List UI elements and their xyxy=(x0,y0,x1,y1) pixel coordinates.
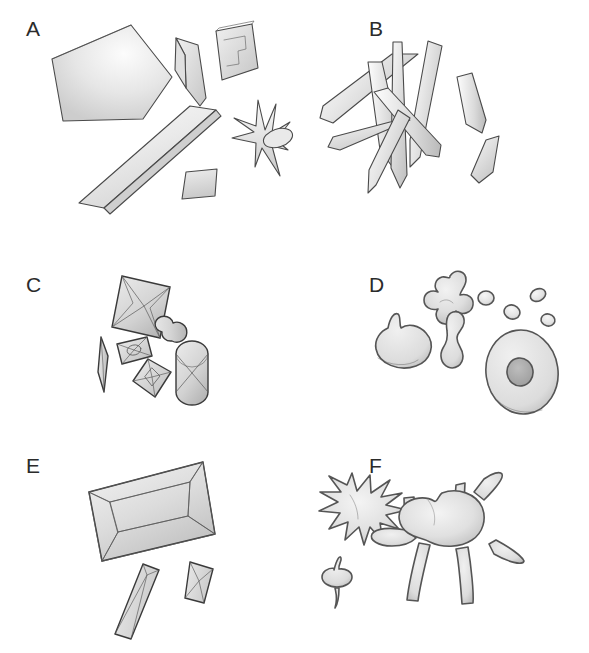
rectangular-plate-with-inclusion xyxy=(216,21,258,80)
droplet-4 xyxy=(540,312,557,327)
panel-d-graphic xyxy=(290,250,589,440)
panel-e-graphic xyxy=(0,440,300,653)
small-prism-right xyxy=(185,562,213,603)
capsule-with-cross xyxy=(176,341,208,405)
panel-f-graphic xyxy=(290,440,589,653)
large-rectangular-prism xyxy=(89,462,215,561)
figure-plate: A xyxy=(0,0,589,653)
droplet-3 xyxy=(528,286,548,304)
panel-label-d: D xyxy=(369,274,385,295)
panel-d: D xyxy=(290,250,589,440)
lath-right-upper xyxy=(457,73,486,133)
panel-a: A xyxy=(0,0,300,230)
panel-a-graphic xyxy=(0,0,300,230)
panel-b-graphic xyxy=(290,0,589,230)
panel-c: C xyxy=(0,250,300,440)
panel-c-graphic xyxy=(0,250,300,440)
kidney-teardrop-blob xyxy=(376,314,432,368)
panel-label-c: C xyxy=(26,274,42,295)
droplet-2 xyxy=(502,303,522,322)
small-bipyramid-with-cross xyxy=(133,359,171,397)
panel-label-a: A xyxy=(26,18,41,39)
panel-label-e: E xyxy=(26,455,41,476)
panel-label-b: B xyxy=(369,18,384,39)
small-prism-left xyxy=(115,564,159,639)
folded-chevron-sheet xyxy=(175,38,206,106)
lath-right-lower xyxy=(471,136,499,183)
panel-e: E xyxy=(0,440,300,653)
small-winged-nodule xyxy=(322,557,352,608)
star-burst-rosette-with-lobe xyxy=(232,100,295,176)
torus-disc-with-central-pit xyxy=(481,325,564,418)
large-pentagonal-plate xyxy=(52,25,172,121)
branching-amoeboid-aggregate xyxy=(371,473,524,604)
small-parallelogram-plate xyxy=(182,169,217,199)
droplet-1 xyxy=(478,291,494,305)
panel-label-f: F xyxy=(369,455,382,476)
thin-lens-spindle xyxy=(98,337,108,392)
panel-f: F xyxy=(290,440,589,653)
panel-b: B xyxy=(290,0,589,230)
